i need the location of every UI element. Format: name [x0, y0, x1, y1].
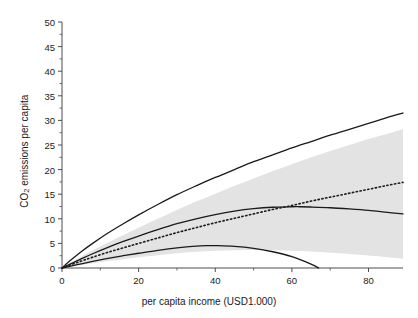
x-axis-title: per capita income (USD1.000): [0, 296, 418, 307]
y-axis-title-prefix: CO: [19, 193, 30, 208]
x-tick-label: 60: [287, 275, 298, 286]
x-tick-label: 40: [210, 275, 221, 286]
x-axis-ticks: [62, 268, 369, 272]
y-tick-label: 0: [22, 263, 55, 274]
y-axis-title-suffix: emissions per capita: [19, 95, 30, 189]
chart-figure: 05101520253035404550 020406080 per capit…: [0, 0, 418, 318]
x-tick-label: 20: [133, 275, 144, 286]
x-tick-label: 0: [59, 275, 64, 286]
confidence-band: [62, 129, 403, 268]
plot-canvas: [0, 0, 418, 318]
x-tick-label: 80: [363, 275, 374, 286]
y-tick-label: 50: [22, 17, 55, 28]
y-axis-title-subscript: 2: [22, 189, 31, 193]
y-axis-ticks: [58, 22, 62, 268]
y-axis-title: CO2 emissions per capita: [19, 51, 32, 251]
